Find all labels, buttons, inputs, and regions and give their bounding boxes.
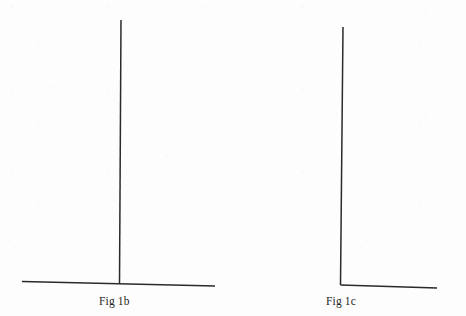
fig-1b-vertical-stem — [120, 20, 122, 284]
figure-caption-1b: Fig 1b — [99, 295, 130, 308]
figure-1c-group — [341, 27, 438, 288]
fig-1c-vertical-stem — [341, 27, 344, 285]
fig-1b-horizontal-base — [22, 282, 215, 287]
page-canvas: Fig 1b Fig 1c — [0, 0, 466, 316]
figure-1b-group — [22, 20, 215, 286]
figure-caption-1c: Fig 1c — [326, 295, 356, 308]
figure-drawing-area — [0, 0, 466, 316]
fig-1c-horizontal-base — [341, 285, 438, 288]
